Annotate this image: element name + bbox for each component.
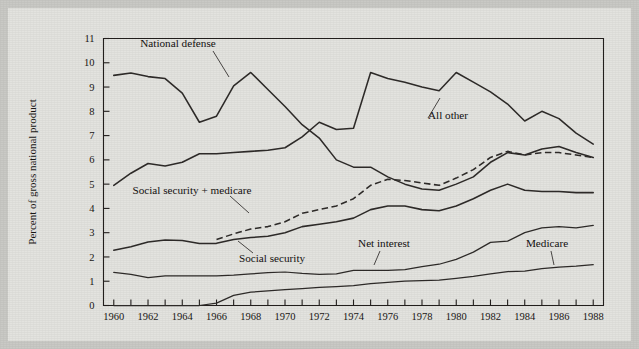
y-axis-title: Percent of gross national product <box>26 99 38 244</box>
label-social-security: Social security <box>239 252 306 264</box>
x-tick-label: 1962 <box>138 311 159 322</box>
x-tick-label: 1984 <box>514 311 536 322</box>
label-national-defense: National defense <box>140 37 216 49</box>
label-medicare: Medicare <box>526 237 568 249</box>
line-chart: 01234567891011 1960196219641966196819701… <box>0 0 639 349</box>
leader-ss-medicare <box>230 196 249 213</box>
x-tick-label: 1986 <box>548 311 569 322</box>
x-tick-label: 1970 <box>275 311 296 322</box>
y-tick-label: 8 <box>89 106 94 117</box>
x-axis-ticks <box>114 300 593 306</box>
y-tick-label: 11 <box>84 33 94 44</box>
y-tick-label: 5 <box>89 179 94 190</box>
x-tick-label: 1974 <box>343 311 365 322</box>
x-tick-label: 1978 <box>411 311 432 322</box>
y-tick-label: 3 <box>89 227 94 238</box>
leader-medicare <box>551 251 554 265</box>
figure-page: 01234567891011 1960196219641966196819701… <box>0 0 639 349</box>
y-tick-label: 2 <box>89 252 94 263</box>
y-tick-label: 0 <box>89 300 94 311</box>
annotation-leaders <box>213 51 554 265</box>
y-tick-label: 1 <box>89 276 94 287</box>
leader-national-defense <box>213 51 229 77</box>
x-tick-label: 1980 <box>446 311 467 322</box>
y-tick-label: 10 <box>84 57 95 68</box>
x-tick-label: 1966 <box>206 311 227 322</box>
y-axis-tick-labels: 01234567891011 <box>84 33 95 311</box>
x-tick-label: 1972 <box>309 311 330 322</box>
label-ss-medicare: Social security + medicare <box>132 184 251 196</box>
x-axis-tick-labels: 1960196219641966196819701972197419761978… <box>103 311 603 322</box>
leader-net-interest <box>374 251 380 265</box>
y-axis-ticks <box>104 39 110 306</box>
label-net-interest: Net interest <box>358 237 411 249</box>
y-tick-label: 9 <box>89 82 94 93</box>
label-all-other: All other <box>428 109 468 121</box>
series-net-interest <box>114 225 593 277</box>
x-tick-label: 1960 <box>103 311 124 322</box>
x-tick-label: 1964 <box>172 311 194 322</box>
x-tick-label: 1982 <box>480 311 501 322</box>
y-tick-label: 7 <box>89 130 94 141</box>
plot-frame <box>104 39 604 306</box>
y-tick-label: 6 <box>89 154 94 165</box>
x-tick-label: 1976 <box>377 311 398 322</box>
x-tick-label: 1968 <box>240 311 261 322</box>
series-social-security-medicare <box>217 151 594 239</box>
x-tick-label: 1988 <box>583 311 604 322</box>
series-all-other <box>114 72 593 185</box>
series-national-defense <box>114 72 593 190</box>
y-tick-label: 4 <box>89 203 95 214</box>
